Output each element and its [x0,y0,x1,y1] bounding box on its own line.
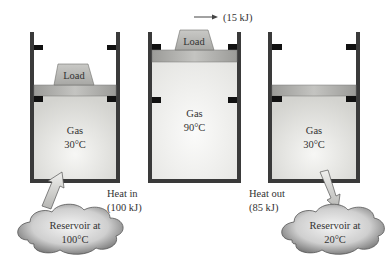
cylinder-right-wall [356,32,360,183]
gas-label: Gas [152,107,237,120]
gas-temperature: 90°C [152,121,237,134]
upper-stop-left [34,45,43,50]
reservoir-hot-label: Reservoir at [40,219,110,232]
reservoir-cold-label: Reservoir at [295,219,375,232]
cylinder-right-wall [237,32,241,183]
heat-out-label: Heat out [249,187,285,200]
upper-stop-left [152,44,161,50]
upper-stop-right [107,45,116,50]
heat-in-label: Heat in [107,187,138,200]
piston [272,85,356,96]
heat-out-amount: (85 kJ) [249,201,278,214]
cylinder-left-wall [30,32,34,183]
lower-stop-left [272,96,282,102]
cylinder-bottom [268,179,360,183]
piston [34,85,116,96]
piston [152,50,237,62]
lower-stop-left [152,97,161,103]
reservoir-cold-temperature: 20°C [295,233,375,246]
upper-stop-right [346,44,356,50]
gas-label: Gas [272,124,356,137]
cylinder-bottom [148,179,241,183]
reservoir-hot-temperature: 100°C [40,233,110,246]
gas-temperature: 30°C [272,138,356,151]
cylinder-bottom [30,179,120,183]
work-arrow-head [212,15,218,20]
upper-stop-right [228,44,237,50]
cylinder-state-1 [30,32,120,183]
lower-stop-right [107,96,116,102]
lower-stop-right [346,96,356,102]
heat-in-amount: (100 kJ) [107,201,142,214]
lower-stop-right [228,97,237,103]
cylinder-state-3 [268,32,360,183]
upper-stop-left [272,44,282,50]
load-label: Load [56,69,92,82]
cylinder-right-wall [116,32,120,183]
cylinder-left-wall [268,32,272,183]
lower-stop-left [34,96,43,102]
load-label: Load [176,35,212,48]
work-output-label: (15 kJ) [223,11,252,24]
gas-label: Gas [34,124,116,137]
gas-temperature: 30°C [34,138,116,151]
